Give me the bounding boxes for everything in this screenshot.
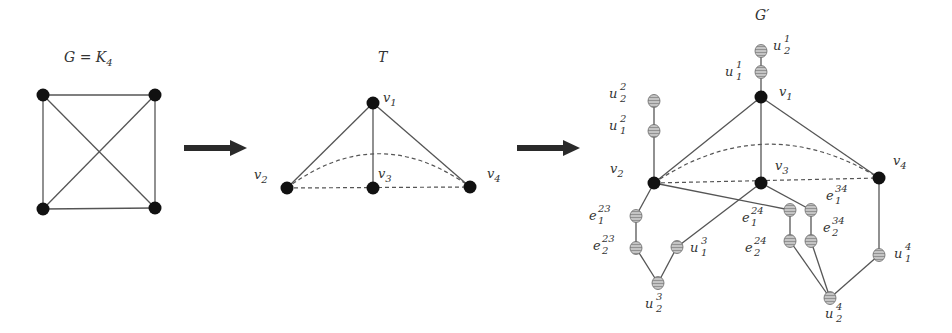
vertex-u24 (824, 292, 836, 305)
vertex (149, 202, 162, 215)
panel-g-k4: G = K4 (37, 49, 162, 216)
vertex (37, 89, 50, 102)
vertex-v2 (648, 177, 661, 190)
label-v3: v3 (775, 158, 789, 176)
label-e123-sup: 23 (597, 203, 611, 214)
label-e123: e (589, 208, 597, 223)
label-u24-sub: 2 (835, 313, 842, 324)
label-u14-sub: 1 (905, 253, 911, 264)
vertex-u13 (671, 241, 683, 254)
vertex-v1 (367, 97, 380, 110)
label-u22-sup: 2 (619, 81, 626, 92)
label-e124-sup: 24 (750, 205, 764, 216)
label-u12-sup: 2 (619, 113, 626, 124)
vertex-v1 (755, 91, 768, 104)
label-u12-sub: 1 (620, 125, 626, 136)
label-u24-sup: 4 (835, 301, 842, 312)
vertex-e134 (805, 204, 817, 217)
vertex-u23 (652, 277, 664, 290)
label-v4: v4 (487, 166, 501, 184)
label-u12: u (609, 118, 617, 133)
edge-bottom (43, 208, 155, 209)
label-u23-sub: 2 (655, 303, 662, 314)
label-e234: e (823, 220, 831, 235)
label-e224-sub: 2 (753, 247, 760, 258)
dashed-arc-v2-v4 (654, 144, 879, 183)
label-e224-sup: 24 (753, 235, 767, 246)
panel-title-g: G = K4 (64, 49, 113, 68)
label-u22: u (609, 86, 617, 101)
figure-canvas: G = K4 T (0, 0, 952, 333)
label-u13-sup: 3 (701, 235, 707, 246)
vertex-u11 (755, 66, 767, 79)
vertex-e124 (784, 204, 796, 217)
label-v1: v1 (779, 84, 793, 102)
label-v2: v2 (610, 161, 624, 179)
label-u13: u (690, 240, 698, 255)
edge-v1-v2 (287, 103, 373, 188)
arrow-right-icon (517, 140, 580, 156)
label-u11: u (725, 64, 733, 79)
label-e123-sub: 1 (598, 215, 604, 226)
label-e234-sup: 34 (832, 215, 845, 226)
edge-u14-u24 (830, 255, 879, 298)
edge-e224-u24 (790, 241, 830, 298)
label-u14-sup: 4 (904, 241, 911, 252)
label-e124-sub: 1 (751, 217, 757, 228)
arrow-right-icon (184, 140, 247, 156)
g-prime-labels: v1 v2 v3 v4 u 1 1 u 1 2 u 2 1 u 2 2 e 23… (589, 33, 911, 324)
vertex-e224 (784, 235, 796, 248)
label-u13-sub: 1 (701, 247, 707, 258)
vertex-v2 (281, 182, 294, 195)
vertex-u14 (873, 249, 885, 262)
label-e134: e (826, 188, 834, 203)
label-e134-sup: 34 (835, 183, 848, 194)
label-u11-sup: 1 (736, 59, 742, 70)
vertex (149, 89, 162, 102)
vertex-v4 (873, 172, 886, 185)
label-e134-sub: 1 (835, 195, 841, 206)
vertex (37, 203, 50, 216)
vertex-u22 (648, 95, 660, 108)
vertex-e123 (630, 210, 642, 223)
panel-title-t: T (378, 49, 389, 65)
label-u22-sub: 2 (619, 93, 626, 104)
vertex-u21 (755, 45, 767, 58)
g-prime-black-vertices (648, 91, 886, 190)
vertex-v3 (367, 182, 380, 195)
label-v2: v2 (254, 167, 268, 185)
vertex-u12 (648, 125, 660, 138)
label-e234-sub: 2 (831, 227, 838, 238)
panel-t: T v1 v2 v3 v4 (254, 49, 501, 195)
label-u23-sup: 3 (656, 291, 662, 302)
g-prime-edges (636, 51, 879, 298)
label-e124: e (742, 210, 750, 225)
panel-title-g-prime: G′ (755, 7, 770, 23)
vertex-e234 (805, 235, 817, 248)
label-v4: v4 (893, 153, 907, 171)
label-u11-sub: 1 (736, 71, 742, 82)
label-u21-sub: 2 (783, 45, 790, 56)
label-e224: e (745, 240, 753, 255)
vertex-v3 (755, 177, 768, 190)
label-u23: u (645, 296, 653, 311)
vertex-v4 (464, 181, 477, 194)
label-u21: u (773, 38, 781, 53)
label-e223-sup: 23 (601, 233, 615, 244)
label-u14: u (894, 246, 902, 261)
edge-v1-v2 (654, 97, 761, 183)
k4-edges (43, 95, 155, 209)
label-e223-sub: 2 (601, 245, 608, 256)
label-u21-sup: 1 (784, 33, 790, 44)
label-v3: v3 (378, 166, 392, 184)
vertex-e223 (630, 242, 642, 255)
label-u24: u (825, 306, 833, 321)
edge-e234-u24 (811, 241, 830, 298)
panel-g-prime: G′ (589, 7, 911, 324)
label-e223: e (593, 238, 601, 253)
label-v1: v1 (383, 90, 397, 108)
